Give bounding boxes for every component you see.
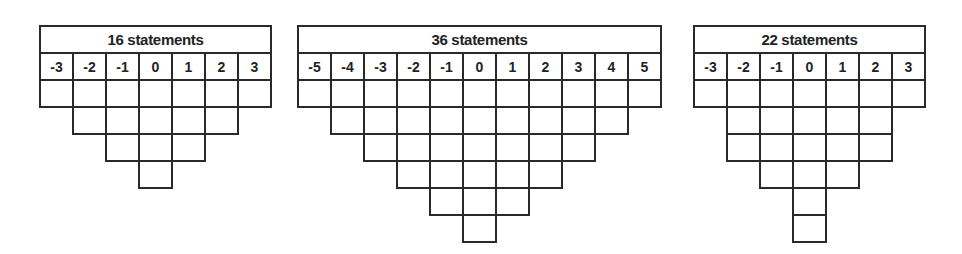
sort-slot <box>858 79 893 108</box>
sort-slot <box>363 106 398 135</box>
sort-slot <box>429 160 464 189</box>
grid-title: 22 statements <box>693 25 926 52</box>
sort-slot <box>171 106 206 135</box>
sort-slot <box>237 79 272 108</box>
sort-slot <box>72 106 107 135</box>
column-header: 0 <box>792 52 827 81</box>
grid-title: 16 statements <box>39 25 272 52</box>
sort-slot <box>396 133 431 162</box>
sort-slot <box>792 79 827 108</box>
sort-slot <box>462 187 497 216</box>
sort-slot <box>297 79 332 108</box>
column-header: 0 <box>462 52 497 81</box>
sort-slot <box>528 106 563 135</box>
column-header: -1 <box>105 52 140 81</box>
column-header: 2 <box>204 52 239 81</box>
sort-slot <box>462 160 497 189</box>
sort-slot <box>726 79 761 108</box>
sort-slot <box>825 106 860 135</box>
sort-slot <box>792 187 827 216</box>
sort-slot <box>693 79 728 108</box>
sort-slot <box>429 106 464 135</box>
sort-slot <box>759 160 794 189</box>
grid-title: 36 statements <box>297 25 662 52</box>
sort-slot <box>825 79 860 108</box>
sort-slot <box>330 106 365 135</box>
sort-slot <box>495 160 530 189</box>
column-header: 3 <box>561 52 596 81</box>
sort-slot <box>429 187 464 216</box>
column-header: -3 <box>693 52 728 81</box>
column-header: -5 <box>297 52 332 81</box>
sort-slot <box>138 133 173 162</box>
sort-slot <box>825 160 860 189</box>
sort-slot <box>363 79 398 108</box>
sort-slot <box>204 106 239 135</box>
sort-slot <box>462 133 497 162</box>
sort-slot <box>528 79 563 108</box>
sort-slot <box>171 133 206 162</box>
sort-slot <box>792 214 827 243</box>
sort-slot <box>759 106 794 135</box>
sort-slot <box>858 133 893 162</box>
column-header: -2 <box>396 52 431 81</box>
sort-slot <box>330 79 365 108</box>
column-header: 3 <box>891 52 926 81</box>
sort-slot <box>891 79 926 108</box>
sort-slot <box>396 79 431 108</box>
sort-slot <box>594 106 629 135</box>
sort-slot <box>171 79 206 108</box>
column-header: 1 <box>171 52 206 81</box>
column-header: 2 <box>858 52 893 81</box>
sort-slot <box>825 133 860 162</box>
sort-slot <box>363 133 398 162</box>
sort-slot <box>792 133 827 162</box>
sort-slot <box>759 133 794 162</box>
sort-slot <box>792 160 827 189</box>
column-header: -1 <box>429 52 464 81</box>
column-header: -2 <box>726 52 761 81</box>
column-header: -3 <box>39 52 74 81</box>
sort-slot <box>759 79 794 108</box>
column-header: 5 <box>627 52 662 81</box>
sort-slot <box>462 214 497 243</box>
sort-slot <box>105 106 140 135</box>
sort-slot <box>72 79 107 108</box>
sort-slot <box>726 133 761 162</box>
column-header: 0 <box>138 52 173 81</box>
column-header: -2 <box>72 52 107 81</box>
column-header: -1 <box>759 52 794 81</box>
column-header: 3 <box>237 52 272 81</box>
sort-slot <box>39 79 74 108</box>
sort-slot <box>138 160 173 189</box>
sort-slot <box>495 187 530 216</box>
sort-slot <box>429 133 464 162</box>
sort-slot <box>396 160 431 189</box>
column-header: -3 <box>363 52 398 81</box>
sort-slot <box>204 79 239 108</box>
sort-slot <box>138 106 173 135</box>
sort-slot <box>594 79 629 108</box>
sort-slot <box>792 106 827 135</box>
sort-slot <box>561 133 596 162</box>
sort-slot <box>528 133 563 162</box>
sort-slot <box>495 133 530 162</box>
sort-slot <box>726 106 761 135</box>
sort-slot <box>495 106 530 135</box>
sort-slot <box>495 79 530 108</box>
column-header: 1 <box>495 52 530 81</box>
sort-slot <box>858 106 893 135</box>
sort-slot <box>462 79 497 108</box>
column-header: 2 <box>528 52 563 81</box>
column-header: 4 <box>594 52 629 81</box>
sort-slot <box>561 106 596 135</box>
sort-slot <box>561 79 596 108</box>
sort-slot <box>627 79 662 108</box>
column-header: -4 <box>330 52 365 81</box>
sort-slot <box>462 106 497 135</box>
sort-slot <box>138 79 173 108</box>
sort-slot <box>105 79 140 108</box>
sort-slot <box>105 133 140 162</box>
column-header: 1 <box>825 52 860 81</box>
sort-slot <box>429 79 464 108</box>
